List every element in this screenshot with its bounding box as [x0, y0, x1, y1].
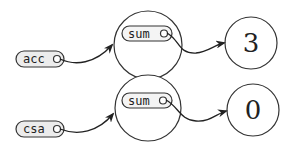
value-label-3: 3	[243, 28, 260, 58]
port-icon	[54, 56, 61, 63]
variable-label-csa: csa	[23, 122, 45, 136]
row-csa: csa sum 0	[16, 75, 279, 141]
port-icon	[54, 126, 61, 133]
edge-csa-to-object	[60, 114, 113, 132]
object-circle-1	[114, 11, 182, 79]
field-label-sum-2: sum	[128, 94, 150, 108]
field-label-sum-1: sum	[128, 27, 150, 41]
row-acc: acc sum 3	[16, 11, 277, 79]
edge-acc-to-object	[60, 45, 112, 63]
pointer-diagram: acc sum 3 csa sum 0	[0, 0, 291, 155]
value-label-0: 0	[245, 95, 262, 125]
variable-label-acc: acc	[23, 52, 45, 66]
port-icon	[160, 97, 167, 104]
port-icon	[161, 30, 168, 37]
